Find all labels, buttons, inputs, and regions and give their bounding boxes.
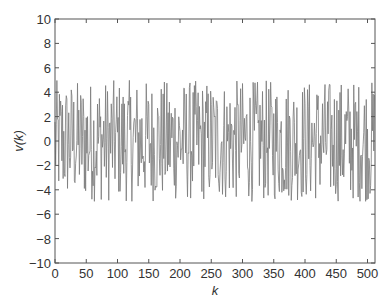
x-tick-label: 0: [51, 266, 58, 281]
y-tick-label: 10: [37, 12, 51, 27]
x-tick-label: 250: [200, 266, 222, 281]
x-tick-label: 400: [294, 266, 316, 281]
noise-series: [55, 80, 374, 201]
x-tick-label: 450: [325, 266, 347, 281]
y-tick-label: 0: [44, 134, 51, 149]
x-tick-label: 50: [79, 266, 93, 281]
y-tick-label: 4: [44, 85, 51, 100]
noise-line-chart: 050100150200250300350400450500 1086420−2…: [0, 0, 390, 307]
x-tick-label: 300: [232, 266, 254, 281]
y-tick-label: −8: [36, 232, 51, 247]
y-tick-label: −4: [36, 183, 51, 198]
y-tick-label: 2: [44, 110, 51, 125]
y-tick-label: 8: [44, 36, 51, 51]
x-tick-label: 200: [169, 266, 191, 281]
y-axis-label: v(k): [11, 130, 26, 152]
y-tick-label: −2: [36, 158, 51, 173]
x-tick-label: 500: [357, 266, 379, 281]
x-tick-label: 150: [138, 266, 160, 281]
x-tick-label: 350: [263, 266, 285, 281]
y-tick-label: −6: [36, 207, 51, 222]
noise-line: [55, 80, 374, 201]
x-axis-label: k: [212, 283, 220, 298]
y-tick-label: 6: [44, 61, 51, 76]
y-tick-label: −10: [29, 256, 51, 271]
x-axis-ticks: 050100150200250300350400450500: [51, 19, 378, 281]
x-tick-label: 100: [107, 266, 129, 281]
